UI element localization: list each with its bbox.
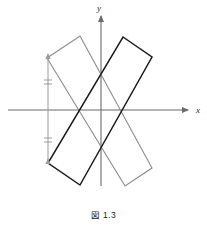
figure-container: x y 図 1.3 xyxy=(0,0,207,228)
figure-1-3-drawing: x y xyxy=(0,0,207,228)
x-axis-label: x xyxy=(195,105,200,115)
rectangle-gray xyxy=(47,36,152,186)
figure-caption: 図 1.3 xyxy=(0,208,207,220)
rectangle-black xyxy=(48,37,152,185)
y-axis-label: y xyxy=(96,3,101,13)
axes-group xyxy=(8,16,188,186)
